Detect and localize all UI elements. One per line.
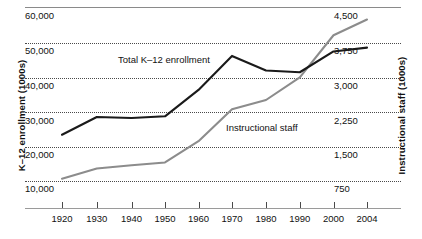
series-label-instructional-staff: Instructional staff <box>226 122 298 133</box>
line-chart: K–12 enrollment (1000s) Instructional st… <box>0 0 422 239</box>
series-label-total-enrollment: Total K–12 enrollment <box>118 54 210 65</box>
instructional-staff-line <box>62 19 367 178</box>
series-lines <box>0 0 422 239</box>
total-enrollment-line <box>62 48 367 135</box>
